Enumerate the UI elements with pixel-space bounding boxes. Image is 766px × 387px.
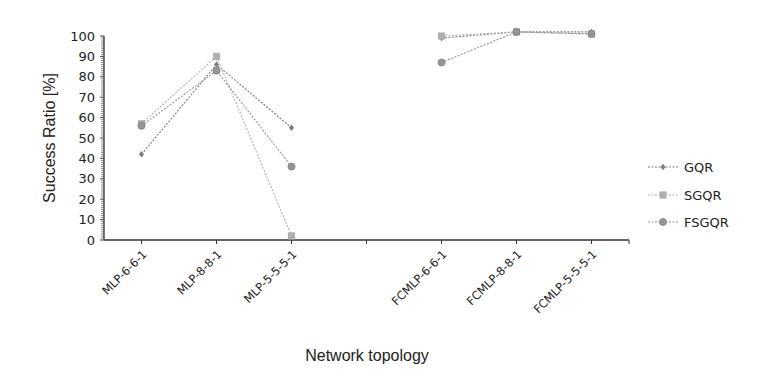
- data-point-diamond-icon: [139, 151, 144, 157]
- series-line: [142, 65, 292, 155]
- y-tick-label: 90: [78, 49, 95, 64]
- line-chart: Success Ratio [%] 0102030405060708090100…: [0, 0, 766, 387]
- data-point-circle-icon: [138, 122, 145, 129]
- y-tick-label: 70: [78, 90, 95, 105]
- series-line: [142, 71, 292, 167]
- data-point-circle-icon: [288, 163, 295, 170]
- plot-series: [138, 28, 595, 239]
- legend-item-gqr: GQR: [648, 160, 713, 175]
- y-tick-label: 40: [78, 151, 95, 166]
- data-point-diamond-icon: [289, 125, 294, 131]
- x-tick-label: MLP-5-5-5-1: [241, 247, 300, 306]
- y-axis-title: Success Ratio [%]: [41, 73, 58, 203]
- legend-label: SGQR: [684, 188, 722, 203]
- legend-label: GQR: [684, 160, 713, 175]
- axes: [104, 36, 629, 244]
- series-sgqr: [138, 28, 595, 239]
- legend-item-fsgqr: FSGQR: [648, 215, 729, 230]
- y-axis-title-group: Success Ratio [%]: [41, 73, 58, 203]
- data-point-square-icon: [438, 32, 445, 39]
- legend-item-sgqr: SGQR: [648, 188, 722, 203]
- legend: GQRSGQRFSGQR: [648, 160, 729, 230]
- x-tick-label: FCMLP-6-6-1: [389, 247, 450, 308]
- y-tick-label: 0: [87, 233, 95, 248]
- series-fsgqr: [138, 28, 595, 170]
- y-tick-label: 10: [78, 212, 95, 227]
- y-tick-label: 30: [78, 171, 95, 186]
- x-tick-label: FCMLP-8-8-1: [464, 247, 525, 308]
- x-axis-ticks: MLP-6-6-1MLP-8-8-1MLP-5-5-5-1FCMLP-6-6-1…: [99, 240, 600, 316]
- data-point-square-icon: [288, 232, 295, 239]
- legend-circle-icon: [659, 218, 666, 225]
- y-tick-label: 60: [78, 110, 95, 125]
- data-point-square-icon: [213, 53, 220, 60]
- x-axis-title: Network topology: [305, 347, 429, 364]
- series-line: [142, 56, 292, 236]
- x-tick-label: MLP-6-6-1: [99, 247, 150, 298]
- y-axis-ticks: 0102030405060708090100: [70, 29, 104, 248]
- series-gqr: [139, 29, 594, 158]
- y-tick-label: 50: [78, 131, 95, 146]
- y-tick-label: 80: [78, 69, 95, 84]
- x-tick-label: FCMLP-5-5-5-1: [531, 247, 600, 316]
- data-point-circle-icon: [213, 67, 220, 74]
- y-tick-label: 20: [78, 192, 95, 207]
- legend-label: FSGQR: [684, 215, 729, 230]
- legend-diamond-icon: [660, 164, 665, 170]
- data-point-circle-icon: [513, 28, 520, 35]
- data-point-circle-icon: [438, 59, 445, 66]
- legend-square-icon: [659, 191, 666, 198]
- x-tick-label: MLP-8-8-1: [174, 247, 225, 298]
- data-point-circle-icon: [588, 30, 595, 37]
- y-tick-label: 100: [70, 29, 95, 44]
